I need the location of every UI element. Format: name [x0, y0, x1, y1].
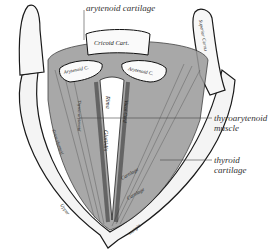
- label-thyreo-arytenoid: Thyreo-arytenoid: [77, 100, 82, 132]
- callout-thyroid-cartilage: thyroid cartilage: [214, 155, 247, 175]
- callout-thyroid-line2: cartilage: [214, 165, 247, 175]
- label-rima: Rima: [105, 95, 111, 109]
- callout-thyroid-line1: thyroid: [214, 155, 247, 165]
- callout-arytenoid-cartilage: arytenoid cartilage: [86, 3, 155, 13]
- label-glottidis: Glottidis: [103, 130, 109, 152]
- label-cricoid: Cricoid Cart.: [94, 39, 129, 46]
- callout-thyroarytenoid-line2: muscle: [214, 123, 267, 133]
- callout-thyroarytenoid-muscle: thyroarytenoid muscle: [214, 113, 267, 133]
- callout-thyroarytenoid-line1: thyroarytenoid: [214, 113, 267, 123]
- left-cornu: [19, 5, 44, 75]
